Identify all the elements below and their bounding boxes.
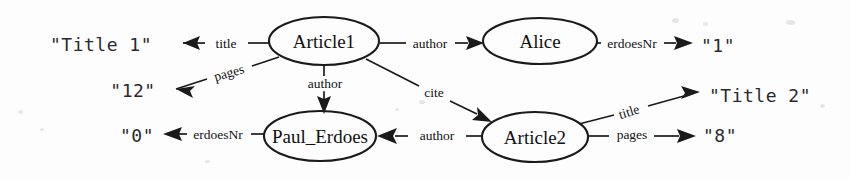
edge-label-title-article1: title xyxy=(215,37,238,51)
edge-label-cite: cite xyxy=(423,86,445,100)
literal-erdoesnr-0: "0" xyxy=(120,125,154,146)
node-label-alice: Alice xyxy=(519,31,560,53)
node-label-article1: Article1 xyxy=(293,31,355,53)
rdf-graph-diagram: "Title 1" (horizontal, arrow left) --> "… xyxy=(0,0,851,179)
literal-title-1: "Title 1" xyxy=(50,34,152,55)
edge-label-erdoesnr-paul: erdoesNr xyxy=(192,128,243,142)
edge-label-author-article2: author xyxy=(419,129,456,143)
literal-title-2: "Title 2" xyxy=(709,85,811,106)
node-label-paul-erdoes: Paul_Erdoes xyxy=(272,126,368,148)
literal-pages-12: "12" xyxy=(110,80,155,101)
edge-label-author-alice: author xyxy=(412,37,449,51)
literal-pages-8: "8" xyxy=(703,125,737,146)
literal-erdoesnr-1: "1" xyxy=(701,35,735,56)
edge-title-article2 xyxy=(579,86,700,124)
edge-label-erdoesnr-alice: erdoesNr xyxy=(606,37,657,51)
edge-label-author-paul: author xyxy=(307,77,344,91)
node-label-article2: Article2 xyxy=(504,127,566,149)
edge-label-pages-article2: pages xyxy=(616,128,649,142)
